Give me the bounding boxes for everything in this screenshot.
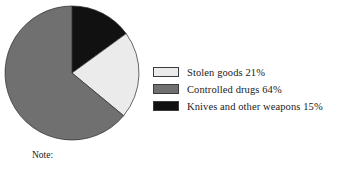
legend-item-knives-weapons: Knives and other weapons 15% bbox=[153, 98, 339, 114]
legend-item-controlled-drugs: Controlled drugs 64% bbox=[153, 81, 339, 97]
legend-label-controlled-drugs: Controlled drugs 64% bbox=[187, 84, 282, 95]
legend-swatch-controlled-drugs bbox=[153, 84, 179, 94]
legend-swatch-stolen-goods bbox=[153, 67, 179, 77]
legend-swatch-knives-weapons bbox=[153, 101, 179, 111]
chart-legend: Stolen goods 21% Controlled drugs 64% Kn… bbox=[153, 64, 339, 115]
pie-chart-figure: Stolen goods 21% Controlled drugs 64% Kn… bbox=[0, 0, 339, 169]
legend-label-knives-weapons: Knives and other weapons 15% bbox=[187, 101, 323, 112]
pie-slice-group bbox=[5, 6, 139, 140]
figure-note: Note: bbox=[32, 150, 53, 160]
legend-label-stolen-goods: Stolen goods 21% bbox=[187, 67, 265, 78]
legend-item-stolen-goods: Stolen goods 21% bbox=[153, 64, 339, 80]
